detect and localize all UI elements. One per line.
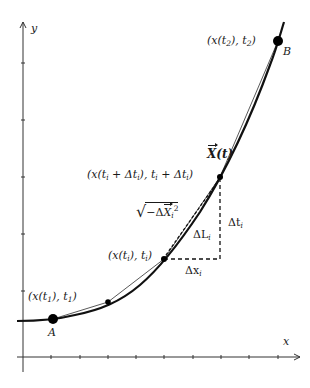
tidt-part2: + Δt bbox=[109, 168, 138, 181]
delta-t-label: Δti bbox=[228, 217, 243, 230]
t2-part2: ), t bbox=[231, 34, 247, 47]
t1-part1: (x(t bbox=[28, 290, 47, 303]
ti-part2: ), t bbox=[130, 249, 146, 262]
point-ti bbox=[161, 256, 167, 262]
delta-t-sub: i bbox=[240, 221, 242, 230]
point-A bbox=[48, 314, 58, 324]
point-A-label: A bbox=[48, 327, 56, 338]
sqrt-expression: √−ΔXi2 bbox=[136, 202, 178, 220]
t2-part3: ) bbox=[252, 34, 256, 47]
diagram-canvas: y x A B (x(t1), t1) (x(t2), t2) (x(ti), … bbox=[0, 0, 310, 388]
point-intermediate bbox=[105, 299, 111, 305]
coord-label-t1: (x(t1), t1) bbox=[28, 291, 77, 304]
curve-label-vec: X bbox=[207, 148, 216, 160]
delta-x-label: Δxi bbox=[185, 265, 202, 278]
sqrt-sign: √−ΔXi2 bbox=[136, 202, 178, 220]
coord-label-ti: (x(ti), ti) bbox=[108, 250, 152, 263]
axes bbox=[17, 22, 300, 372]
t1-part3: ) bbox=[73, 290, 77, 303]
y-axis-label: y bbox=[31, 23, 37, 34]
delta-t-text: Δt bbox=[228, 216, 240, 229]
tidt-part3: ), t bbox=[140, 168, 156, 181]
point-ti-plus-dt bbox=[217, 174, 223, 180]
tidt-part5: ) bbox=[189, 168, 193, 181]
ti-part3: ) bbox=[148, 249, 152, 262]
coord-label-t2: (x(t2), t2) bbox=[207, 35, 256, 48]
delta-L-text: ΔL bbox=[193, 228, 208, 241]
t1-part2: ), t bbox=[52, 290, 68, 303]
point-B-label: B bbox=[283, 46, 291, 57]
coord-label-ti-plus-dt: (x(ti + Δti), ti + Δti) bbox=[87, 169, 193, 182]
delta-x-text: Δx bbox=[185, 264, 199, 277]
sqrt-prefix: −Δ bbox=[146, 206, 163, 219]
delta-x-sub: i bbox=[199, 269, 201, 278]
x-axis-label: x bbox=[283, 336, 289, 347]
point-B bbox=[273, 36, 283, 46]
sqrt-vec: X bbox=[163, 207, 171, 218]
ti-part1: (x(t bbox=[108, 249, 127, 262]
diagram-svg bbox=[0, 0, 310, 388]
delta-L-label: ΔLi bbox=[193, 229, 211, 242]
tidt-part1: (x(t bbox=[87, 168, 106, 181]
sqrt-sup: 2 bbox=[174, 204, 179, 213]
t2-part1: (x(t bbox=[207, 34, 226, 47]
curve-label: X(t) bbox=[207, 148, 233, 160]
delta-L-sub: i bbox=[208, 233, 210, 242]
tidt-part4: + Δt bbox=[158, 168, 187, 181]
curve-label-rest: (t) bbox=[216, 147, 233, 161]
